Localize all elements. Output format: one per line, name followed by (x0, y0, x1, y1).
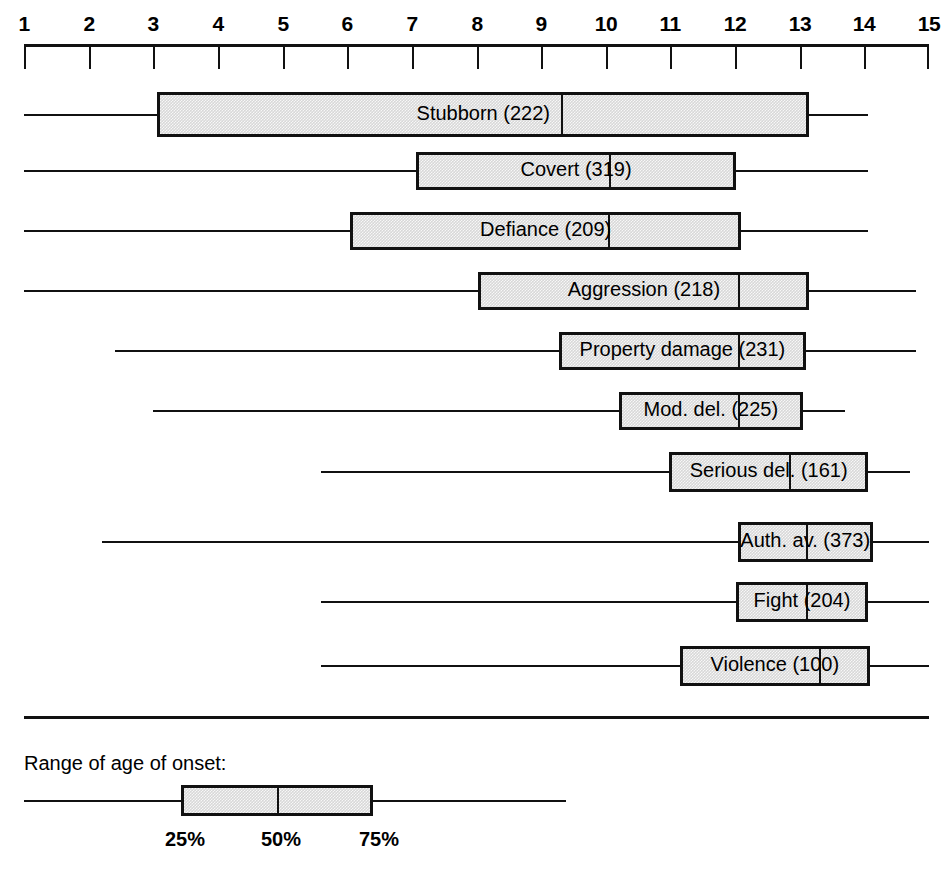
median-line (561, 92, 563, 137)
whisker-low (24, 114, 157, 116)
axis-tick-1 (24, 47, 26, 69)
axis-tick-5 (283, 47, 285, 69)
axis-tick-12 (735, 47, 737, 69)
axis-tick-label-10: 10 (595, 12, 617, 36)
whisker-low (321, 471, 669, 473)
axis-tick-label-12: 12 (724, 12, 746, 36)
axis-tick-label-14: 14 (853, 12, 875, 36)
box-plot-figure: 123456789101112131415 Stubborn (222)Cove… (0, 0, 952, 869)
whisker-low (24, 170, 416, 172)
median-line (738, 272, 740, 310)
axis-tick-3 (153, 47, 155, 69)
whisker-high (809, 114, 867, 116)
whisker-low (321, 601, 735, 603)
axis-tick-11 (670, 47, 672, 69)
axis-tick-13 (800, 47, 802, 69)
legend-tick-label-25: 25% (165, 828, 205, 851)
whisker-high (868, 601, 929, 603)
box-label: Mod. del. (225) (644, 398, 779, 421)
baseline-rule (24, 716, 929, 719)
axis-tick-4 (218, 47, 220, 69)
box-label: Violence (100) (711, 653, 840, 676)
whisker-high (809, 290, 916, 292)
legend-tick-label-75: 75% (359, 828, 399, 851)
box-label: Serious del. (161) (690, 459, 848, 482)
whisker-high (870, 665, 929, 667)
axis-tick-label-6: 6 (341, 12, 352, 36)
axis-tick-15 (927, 47, 929, 69)
axis-tick-label-2: 2 (83, 12, 94, 36)
whisker-low (321, 665, 680, 667)
box-label: Defiance (209) (480, 218, 611, 241)
axis-tick-label-5: 5 (277, 12, 288, 36)
axis-tick-label-4: 4 (212, 12, 223, 36)
whisker-low (153, 410, 618, 412)
axis-tick-label-9: 9 (535, 12, 546, 36)
axis-tick-label-15: 15 (918, 12, 940, 36)
box-label: Auth. av. (373) (740, 529, 870, 552)
axis-tick-2 (89, 47, 91, 69)
whisker-high (803, 410, 845, 412)
legend-median-line (277, 785, 279, 816)
axis-tick-8 (477, 47, 479, 69)
whisker-high (806, 350, 916, 352)
whisker-high (736, 170, 867, 172)
axis-tick-label-13: 13 (789, 12, 811, 36)
box-label: Fight (204) (754, 589, 851, 612)
whisker-low (102, 541, 738, 543)
axis-tick-6 (347, 47, 349, 69)
box-label: Covert (319) (520, 158, 631, 181)
axis-tick-label-3: 3 (147, 12, 158, 36)
axis-tick-14 (864, 47, 866, 69)
axis-tick-label-7: 7 (406, 12, 417, 36)
axis-tick-7 (412, 47, 414, 69)
axis-tick-label-8: 8 (471, 12, 482, 36)
axis-tick-label-11: 11 (659, 12, 680, 36)
axis-tick-9 (541, 47, 543, 69)
whisker-low (115, 350, 559, 352)
box-label: Aggression (218) (568, 278, 720, 301)
axis-tick-10 (606, 47, 608, 69)
box-label: Stubborn (222) (417, 102, 550, 125)
axis-tick-label-1: 1 (18, 12, 29, 36)
box-label: Property damage (231) (580, 338, 786, 361)
whisker-high (873, 541, 929, 543)
whisker-low (24, 290, 478, 292)
legend-tick-label-50: 50% (261, 828, 301, 851)
whisker-high (868, 471, 909, 473)
legend-title: Range of age of onset: (24, 752, 226, 775)
whisker-low (24, 230, 350, 232)
whisker-high (741, 230, 868, 232)
